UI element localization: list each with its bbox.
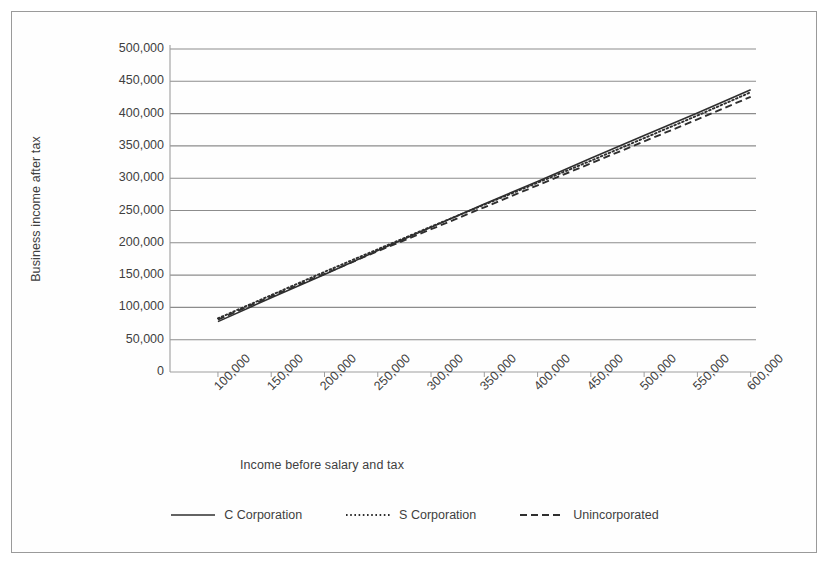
x-tick-label: 450,000: [585, 352, 626, 393]
legend-item[interactable]: C Corporation: [171, 508, 302, 522]
legend-item[interactable]: S Corporation: [346, 508, 476, 522]
legend-label: C Corporation: [224, 508, 302, 522]
legend-label: S Corporation: [399, 508, 476, 522]
x-tick-label: 350,000: [478, 352, 519, 393]
x-tick-label: 250,000: [372, 352, 413, 393]
x-tick-label: 300,000: [425, 352, 466, 393]
x-tick-label: 500,000: [638, 352, 679, 393]
x-axis-tick-labels: 100,000150,000200,000250,000300,000350,0…: [12, 12, 818, 482]
legend-item[interactable]: Unincorporated: [520, 508, 658, 522]
x-tick-label: 600,000: [745, 352, 786, 393]
legend-swatch-icon: [346, 510, 390, 520]
legend-swatch-icon: [520, 510, 564, 520]
x-tick-label: 400,000: [532, 352, 573, 393]
x-tick-label: 150,000: [265, 352, 306, 393]
x-axis-title: Income before salary and tax: [12, 458, 632, 472]
legend-swatch-icon: [171, 510, 215, 520]
chart-figure-frame: Business income after tax 050,000100,000…: [11, 11, 817, 553]
x-tick-label: 200,000: [318, 352, 359, 393]
legend-label: Unincorporated: [573, 508, 658, 522]
x-tick-label: 100,000: [212, 352, 253, 393]
chart-area: Business income after tax 050,000100,000…: [12, 12, 818, 554]
x-tick-label: 550,000: [691, 352, 732, 393]
chart-legend: C CorporationS CorporationUnincorporated: [12, 508, 818, 522]
